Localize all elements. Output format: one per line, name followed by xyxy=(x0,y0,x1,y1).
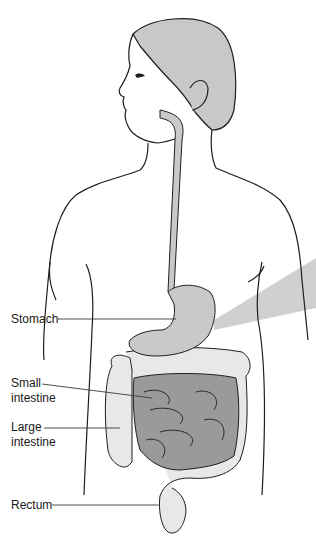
neck-left xyxy=(49,143,148,300)
label-large-intestine-line1: Large xyxy=(11,420,56,435)
esophagus xyxy=(160,110,183,292)
small-intestine xyxy=(133,374,239,471)
eye xyxy=(135,74,145,78)
stomach xyxy=(129,285,215,356)
armpit-right xyxy=(248,266,264,282)
hair xyxy=(133,19,236,130)
label-small-intestine-line1: Small xyxy=(11,376,56,391)
label-large-intestine-line2: intestine xyxy=(11,435,56,450)
arm-left xyxy=(84,264,93,495)
label-small-intestine-line2: intestine xyxy=(11,391,56,406)
digestive-system-illustration xyxy=(0,0,316,545)
label-stomach: Stomach xyxy=(11,312,58,327)
label-small-intestine: Small intestine xyxy=(11,376,56,406)
label-rectum: Rectum xyxy=(11,498,52,513)
label-large-intestine: Large intestine xyxy=(11,420,56,450)
torso-left xyxy=(43,262,50,360)
